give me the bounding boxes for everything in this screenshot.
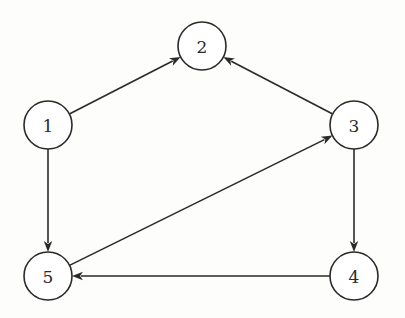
node-label: 3 [349,116,360,136]
edges-layer [44,57,358,280]
edge-4-to-5 [72,272,330,280]
node-label: 4 [349,267,360,287]
node-label: 2 [197,37,208,57]
edge-3-to-2 [223,57,332,114]
node-1: 1 [24,101,72,149]
node-label: 1 [43,116,54,136]
nodes-layer: 12345 [24,22,378,300]
edge-line [70,140,325,266]
edge-1-to-2 [69,57,180,114]
edge-3-to-4 [350,149,358,252]
edge-5-to-3 [70,136,333,266]
node-3: 3 [330,101,378,149]
node-2: 2 [178,22,226,70]
node-4: 4 [330,252,378,300]
edge-line [231,61,332,114]
node-label: 5 [43,267,54,287]
directed-graph: 12345 [0,0,405,318]
edge-1-to-5 [44,149,52,252]
edge-line [69,61,172,114]
node-5: 5 [24,252,72,300]
